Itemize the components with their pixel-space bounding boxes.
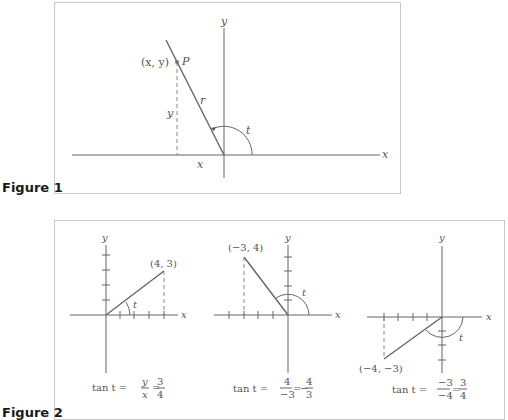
svg-text:−4: −4 — [438, 390, 453, 401]
panel-1: x y (4, 3) t tan t = y x = 3 4 — [70, 232, 187, 400]
svg-text:tan t =: tan t = — [233, 383, 268, 394]
svg-text:−3: −3 — [438, 377, 453, 388]
svg-text:4: 4 — [157, 389, 163, 400]
point-label: (4, 3) — [150, 258, 177, 269]
svg-text:4: 4 — [460, 390, 466, 401]
point-label: (−4, −3) — [359, 363, 403, 374]
terminal-ray — [384, 317, 442, 359]
svg-text:4: 4 — [284, 376, 290, 387]
svg-text:x: x — [142, 389, 148, 400]
angle-label: t — [133, 299, 138, 310]
panel-2: x y (−3, 4) t tan t = 4 −3 = − 4 3 — [214, 232, 341, 400]
svg-text:4: 4 — [306, 376, 312, 387]
x-axis-label: x — [335, 309, 341, 320]
svg-text:tan t =: tan t = — [92, 382, 127, 393]
panel-3: x y (−4, −3) t tan t = −3 −4 = 3 4 — [359, 232, 492, 401]
y-axis-label: y — [438, 232, 445, 243]
svg-text:tan t =: tan t = — [392, 384, 427, 395]
formula: tan t = y x = 3 4 — [92, 376, 165, 400]
angle-label: t — [302, 287, 307, 298]
svg-text:3: 3 — [157, 376, 163, 387]
formula: tan t = 4 −3 = − 4 3 — [233, 376, 313, 400]
y-axis-label: y — [101, 232, 108, 243]
svg-text:3: 3 — [460, 377, 466, 388]
svg-text:y: y — [141, 376, 148, 387]
y-axis-label: y — [284, 232, 291, 243]
angle-arc — [126, 302, 130, 315]
svg-text:3: 3 — [306, 389, 312, 400]
x-axis-label: x — [486, 311, 492, 322]
x-axis-label: x — [181, 309, 187, 320]
angle-label: t — [459, 332, 464, 343]
point-label: (−3, 4) — [228, 242, 263, 253]
terminal-ray — [244, 257, 288, 315]
angle-arc — [426, 317, 463, 337]
formula: tan t = −3 −4 = 3 4 — [392, 377, 467, 401]
